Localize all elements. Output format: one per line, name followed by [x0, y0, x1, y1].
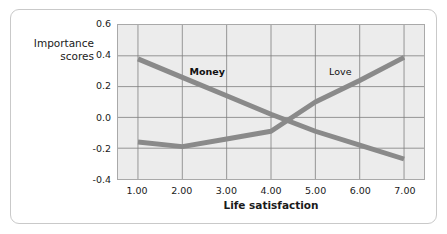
- plot-svg: [118, 25, 424, 179]
- y-tick-label: -0.4: [83, 175, 111, 185]
- x-axis-title: Life satisfaction: [117, 199, 425, 211]
- x-tick-label: 2.00: [162, 186, 202, 196]
- y-tick-label: 0.6: [83, 19, 111, 29]
- y-tick-label: 0.0: [83, 113, 111, 123]
- x-tick-label: 1.00: [117, 186, 157, 196]
- series-label-money: Money: [190, 66, 225, 77]
- y-tick-label: 0.2: [83, 81, 111, 91]
- x-tick-label: 7.00: [385, 186, 425, 196]
- series-label-love: Love: [329, 66, 351, 77]
- y-axis-title-line-1: Importance: [18, 37, 94, 50]
- plot-area: MoneyLove: [117, 24, 425, 180]
- y-tick-label: -0.2: [83, 144, 111, 154]
- x-tick-label: 6.00: [340, 186, 380, 196]
- x-tick-label: 5.00: [296, 186, 336, 196]
- y-tick-label: 0.4: [83, 50, 111, 60]
- gridlines: [118, 25, 424, 179]
- x-tick-label: 3.00: [206, 186, 246, 196]
- x-tick-label: 4.00: [251, 186, 291, 196]
- figure-canvas: Importance scores 0.60.40.20.0-0.2-0.4 M…: [0, 0, 447, 234]
